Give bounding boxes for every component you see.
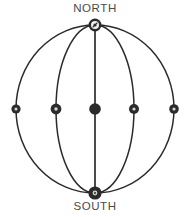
node-far-right [169, 104, 179, 114]
south-label: SOUTH [0, 200, 190, 212]
equator-node-group [11, 103, 178, 115]
node-far-left [11, 104, 20, 113]
node-left [51, 104, 62, 115]
north-label: NORTH [0, 2, 190, 14]
globe-svg [0, 0, 190, 217]
node-center [89, 103, 101, 115]
globe-meridian-diagram: NORTH [0, 0, 190, 217]
node-north-pole [89, 19, 102, 32]
node-south-pole [88, 186, 101, 199]
node-right [129, 104, 139, 114]
